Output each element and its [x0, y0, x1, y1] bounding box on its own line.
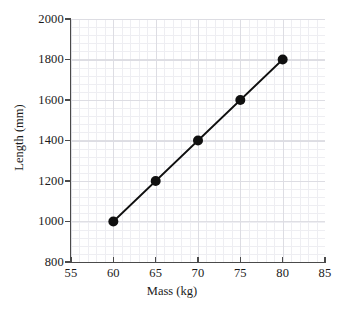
y-tick-mark [65, 180, 70, 181]
y-tick-label: 1600 [38, 94, 64, 107]
x-tick-mark [197, 257, 198, 262]
minor-gridlines [71, 19, 325, 262]
x-tick-mark [155, 257, 156, 262]
plot-area [71, 19, 325, 262]
x-axis-label: Mass (kg) [0, 285, 344, 298]
x-tick-mark [113, 257, 114, 262]
y-tick-mark [65, 261, 70, 262]
x-tick-label: 70 [178, 267, 218, 280]
x-tick-label: 75 [220, 267, 260, 280]
y-tick-label: 2000 [38, 13, 64, 26]
y-tick-mark [65, 18, 70, 19]
x-tick-mark [282, 257, 283, 262]
y-tick-mark [65, 59, 70, 60]
x-tick-mark [324, 257, 325, 262]
y-tick-label: 1800 [38, 53, 64, 66]
chart-figure: 800100012001400160018002000 556065707580… [0, 0, 344, 309]
x-tick-label: 85 [305, 267, 344, 280]
x-tick-label: 65 [136, 267, 176, 280]
x-tick-label: 80 [263, 267, 303, 280]
y-tick-mark [65, 99, 70, 100]
x-tick-label: 60 [93, 267, 133, 280]
y-tick-label: 1000 [38, 215, 64, 228]
major-gridlines [71, 19, 325, 262]
x-tick-mark [70, 257, 71, 262]
y-tick-label: 1200 [38, 175, 64, 188]
y-axis-spine [70, 18, 71, 263]
y-tick-mark [65, 221, 70, 222]
y-tick-mark [65, 140, 70, 141]
y-tick-label: 1400 [38, 134, 64, 147]
x-tick-mark [240, 257, 241, 262]
y-axis-label: Length (mm) [13, 83, 26, 193]
x-tick-label: 55 [51, 267, 91, 280]
